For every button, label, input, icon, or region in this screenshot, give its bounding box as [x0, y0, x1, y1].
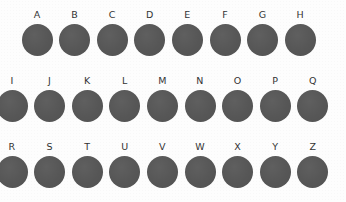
circle-label-a: A [20, 9, 54, 20]
circle-cell-a[interactable]: A [20, 0, 54, 66]
circle-label-c: C [95, 9, 129, 20]
circle-shading-overlay [297, 90, 328, 122]
filled-circle-shape[interactable] [297, 90, 328, 122]
circle-label-m: M [145, 75, 179, 86]
circle-row-1: ABCDEFGH [0, 0, 346, 66]
circle-label-p: P [258, 75, 292, 86]
circle-cell-y[interactable]: Y [258, 132, 292, 198]
circle-shading-overlay [147, 90, 178, 122]
filled-circle-shape[interactable] [210, 24, 241, 56]
filled-circle-shape[interactable] [222, 156, 253, 188]
filled-circle-shape[interactable] [260, 156, 291, 188]
filled-circle-shape[interactable] [34, 156, 65, 188]
circle-cell-m[interactable]: M [145, 66, 179, 132]
circle-cell-x[interactable]: X [221, 132, 255, 198]
circle-cell-z[interactable]: Z [296, 132, 330, 198]
filled-circle-shape[interactable] [0, 90, 28, 122]
filled-circle-shape[interactable] [147, 90, 178, 122]
circle-shading-overlay [260, 156, 291, 188]
circle-cell-k[interactable]: K [70, 66, 104, 132]
filled-circle-shape[interactable] [172, 24, 203, 56]
circle-shading-overlay [297, 156, 328, 188]
filled-circle-shape[interactable] [185, 90, 216, 122]
circle-shading-overlay [172, 24, 203, 56]
filled-circle-shape[interactable] [109, 90, 140, 122]
circle-cell-l[interactable]: L [108, 66, 142, 132]
circle-shading-overlay [109, 90, 140, 122]
circle-label-s: S [33, 141, 67, 152]
circle-label-k: K [70, 75, 104, 86]
filled-circle-shape[interactable] [34, 90, 65, 122]
circle-label-e: E [170, 9, 204, 20]
circle-cell-p[interactable]: P [258, 66, 292, 132]
circle-label-i: I [0, 75, 29, 86]
filled-circle-shape[interactable] [134, 24, 165, 56]
circle-cell-i[interactable]: I [0, 66, 29, 132]
filled-circle-shape[interactable] [0, 156, 28, 188]
filled-circle-shape[interactable] [109, 156, 140, 188]
circle-cell-f[interactable]: F [208, 0, 242, 66]
circle-shading-overlay [34, 90, 65, 122]
circle-cell-n[interactable]: N [183, 66, 217, 132]
circle-cell-v[interactable]: V [145, 132, 179, 198]
circle-shading-overlay [260, 90, 291, 122]
filled-circle-shape[interactable] [147, 156, 178, 188]
circle-shading-overlay [72, 90, 103, 122]
circle-cell-r[interactable]: R [0, 132, 29, 198]
circle-label-d: D [133, 9, 167, 20]
circle-shading-overlay [34, 156, 65, 188]
circle-cell-h[interactable]: H [283, 0, 317, 66]
labeled-circle-grid: ABCDEFGHIJKLMNOPQRSTUVWXYZ [0, 0, 346, 202]
filled-circle-shape[interactable] [297, 156, 328, 188]
circle-cell-e[interactable]: E [170, 0, 204, 66]
circle-label-n: N [183, 75, 217, 86]
circle-cell-b[interactable]: B [58, 0, 92, 66]
circle-shading-overlay [247, 24, 278, 56]
circle-shading-overlay [222, 90, 253, 122]
circle-cell-c[interactable]: C [95, 0, 129, 66]
circle-cell-o[interactable]: O [221, 66, 255, 132]
filled-circle-shape[interactable] [97, 24, 128, 56]
circle-cell-d[interactable]: D [133, 0, 167, 66]
circle-shading-overlay [0, 90, 28, 122]
circle-label-b: B [58, 9, 92, 20]
circle-label-o: O [221, 75, 255, 86]
filled-circle-shape[interactable] [59, 24, 90, 56]
filled-circle-shape[interactable] [22, 24, 53, 56]
circle-shading-overlay [0, 156, 28, 188]
circle-shading-overlay [97, 24, 128, 56]
filled-circle-shape[interactable] [285, 24, 316, 56]
circle-label-z: Z [296, 141, 330, 152]
circle-label-v: V [145, 141, 179, 152]
circle-label-w: W [183, 141, 217, 152]
circle-label-y: Y [258, 141, 292, 152]
circle-label-l: L [108, 75, 142, 86]
circle-cell-t[interactable]: T [70, 132, 104, 198]
circle-cell-u[interactable]: U [108, 132, 142, 198]
filled-circle-shape[interactable] [260, 90, 291, 122]
circle-cell-j[interactable]: J [33, 66, 67, 132]
circle-cell-w[interactable]: W [183, 132, 217, 198]
circle-shading-overlay [147, 156, 178, 188]
circle-row-3: RSTUVWXYZ [0, 132, 346, 198]
circle-shading-overlay [109, 156, 140, 188]
circle-shading-overlay [185, 90, 216, 122]
filled-circle-shape[interactable] [72, 156, 103, 188]
circle-label-j: J [33, 75, 67, 86]
filled-circle-shape[interactable] [72, 90, 103, 122]
circle-label-u: U [108, 141, 142, 152]
circle-label-f: F [208, 9, 242, 20]
circle-shading-overlay [185, 156, 216, 188]
circle-cell-s[interactable]: S [33, 132, 67, 198]
filled-circle-shape[interactable] [185, 156, 216, 188]
circle-label-t: T [70, 141, 104, 152]
circle-label-g: G [246, 9, 280, 20]
circle-shading-overlay [72, 156, 103, 188]
circle-shading-overlay [22, 24, 53, 56]
circle-shading-overlay [210, 24, 241, 56]
circle-label-q: Q [296, 75, 330, 86]
filled-circle-shape[interactable] [222, 90, 253, 122]
circle-cell-q[interactable]: Q [296, 66, 330, 132]
circle-cell-g[interactable]: G [246, 0, 280, 66]
filled-circle-shape[interactable] [247, 24, 278, 56]
